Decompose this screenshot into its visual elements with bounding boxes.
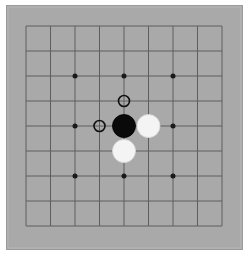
white-stone[interactable] [113, 140, 136, 163]
star-point [171, 124, 176, 129]
star-point [171, 74, 176, 79]
star-point [122, 174, 127, 179]
go-game-view [0, 0, 249, 257]
board-grid[interactable] [0, 0, 249, 257]
black-stone[interactable] [113, 115, 136, 138]
star-point [122, 74, 127, 79]
white-stone[interactable] [137, 115, 160, 138]
star-point [73, 124, 78, 129]
star-point [171, 174, 176, 179]
star-point [73, 174, 78, 179]
star-point [73, 74, 78, 79]
